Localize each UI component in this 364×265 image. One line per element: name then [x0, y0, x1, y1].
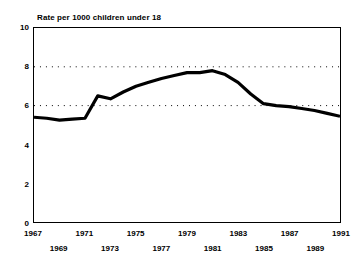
- chart-title: Rate per 1000 children under 18: [37, 13, 161, 22]
- x-tick-label: 1979: [178, 229, 196, 238]
- x-tick-label: 1983: [229, 229, 247, 238]
- plot-area: [33, 27, 341, 223]
- x-tick-label: 1987: [281, 229, 299, 238]
- chart-figure: Rate per 1000 children under 18 1086420 …: [0, 0, 364, 265]
- x-tick-label: 1991: [332, 229, 350, 238]
- x-tick-label: 1967: [24, 229, 42, 238]
- y-tick-label: 8: [3, 62, 29, 71]
- x-tick-label: 1973: [101, 244, 119, 253]
- y-tick-label: 4: [3, 140, 29, 149]
- x-axis-tick-labels: 1967196919711973197519771979198119831985…: [0, 223, 364, 265]
- series-line: [34, 71, 340, 120]
- x-tick-label: 1989: [306, 244, 324, 253]
- y-tick-label: 10: [3, 23, 29, 32]
- y-tick-label: 2: [3, 179, 29, 188]
- x-tick-label: 1975: [127, 229, 145, 238]
- x-tick-label: 1981: [204, 244, 222, 253]
- x-tick-label: 1977: [152, 244, 170, 253]
- data-series-line: [34, 71, 340, 120]
- x-tick-label: 1969: [50, 244, 68, 253]
- x-tick-label: 1971: [75, 229, 93, 238]
- y-axis-tick-labels: 1086420: [0, 27, 29, 223]
- y-tick-label: 6: [3, 101, 29, 110]
- plot-canvas: [34, 28, 340, 222]
- x-tick-label: 1985: [255, 244, 273, 253]
